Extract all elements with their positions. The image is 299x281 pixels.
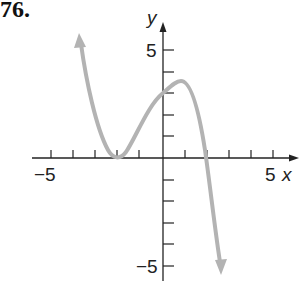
y-axis [160,22,175,281]
function-curve [74,33,227,275]
x-axis-arrow-icon [289,155,299,162]
x-axis [32,150,299,162]
y-tick-label-neg5: −5 [136,256,158,277]
x-tick-label-neg5: −5 [34,164,56,185]
y-axis-arrow-icon [160,22,167,32]
y-axis-label: y [145,7,158,28]
y-tick-label-5: 5 [146,40,157,61]
graph: −5 5 x 5 −5 y [0,0,299,281]
x-axis-label: x [281,164,293,185]
x-tick-label-5: 5 [265,164,276,185]
curve-arrow-up-icon [74,33,86,48]
x-ticks [51,150,273,158]
curve-arrow-down-icon [215,259,227,275]
